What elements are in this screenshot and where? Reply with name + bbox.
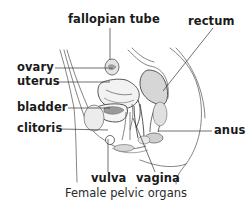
clitoris-shape <box>106 136 115 145</box>
label-clitoris: clitoris <box>17 123 62 135</box>
label-vulva: vulva <box>91 173 126 185</box>
label-vagina: vagina <box>136 173 180 185</box>
label-rectum: rectum <box>188 16 235 28</box>
label-bladder: bladder <box>17 102 68 114</box>
label-ovary: ovary <box>17 62 54 74</box>
pelvic-organs-diagram: fallopian tube rectum ovary uterus bladd… <box>0 0 252 208</box>
figure-caption: Female pelvic organs <box>0 188 252 200</box>
label-uterus: uterus <box>17 76 60 88</box>
label-anus: anus <box>214 125 245 137</box>
label-fallopian-tube: fallopian tube <box>68 14 160 26</box>
rectum-shape <box>140 70 168 104</box>
